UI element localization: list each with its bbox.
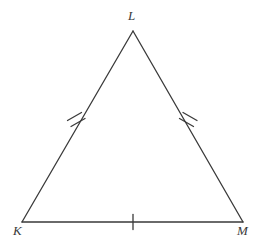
tick-marks-side-LM	[180, 113, 198, 127]
vertex-label-M: M	[237, 224, 248, 237]
triangle-diagram	[0, 0, 264, 246]
tick-mark-lm-2	[180, 119, 194, 127]
side-LM	[133, 31, 243, 222]
tick-mark-kl-1	[68, 113, 82, 121]
vertex-label-L: L	[128, 9, 135, 22]
side-KL	[22, 31, 133, 222]
tick-mark-lm-1	[183, 113, 197, 121]
geometry-figure-canvas: L K M	[0, 0, 264, 246]
tick-marks-side-KL	[68, 113, 86, 127]
triangle-outline	[22, 31, 243, 222]
vertex-label-K: K	[13, 224, 22, 237]
